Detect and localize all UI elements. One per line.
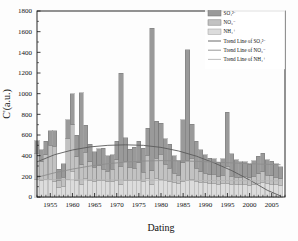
- bar-segment: [146, 179, 150, 197]
- legend-label: Trend Line of NO₃⁻: [224, 47, 266, 53]
- bar-segment: [154, 158, 158, 179]
- bar-segment: [57, 169, 61, 180]
- bar-segment: [88, 180, 92, 197]
- bar-segment: [92, 152, 96, 168]
- bar-segment: [146, 128, 150, 155]
- bar-segment: [274, 164, 278, 177]
- bar-segment: [53, 146, 57, 181]
- bar-segment: [97, 165, 101, 181]
- bar-segment: [243, 162, 247, 176]
- bar-segment: [190, 180, 194, 197]
- bar-segment: [137, 141, 141, 163]
- bar-segment: [70, 125, 74, 172]
- bar-segment: [97, 149, 101, 166]
- bar-segment: [128, 149, 132, 167]
- bar-segment: [119, 166, 123, 185]
- bar-segment: [203, 155, 207, 174]
- bar-segment: [234, 160, 238, 178]
- bar-segment: [270, 161, 274, 175]
- chart-canvas: 0200400600800100012001400160018001955196…: [0, 0, 298, 241]
- bar-segment: [230, 154, 234, 177]
- legend-swatch-so4[interactable]: [208, 11, 221, 16]
- bar-segment: [70, 94, 74, 125]
- bar-segment: [39, 162, 43, 181]
- legend-label: Trend Line of SO₄²⁻: [224, 38, 267, 44]
- bar-segment: [84, 152, 88, 179]
- bar-segment: [181, 120, 185, 163]
- bar-segment: [278, 167, 282, 179]
- bar-segment: [44, 179, 48, 197]
- bar-segment: [212, 174, 216, 183]
- bar-segment: [119, 73, 123, 166]
- bar-segment: [208, 175, 212, 183]
- bar-segment: [101, 180, 105, 197]
- bar-segment: [150, 171, 154, 184]
- bar-segment: [57, 180, 61, 187]
- bar-segment: [221, 175, 225, 183]
- y-tick-label: 1600: [18, 28, 33, 36]
- legend-swatch-no3[interactable]: [208, 20, 221, 25]
- y-tick-label: 800: [22, 111, 33, 119]
- bar-segment: [199, 182, 203, 197]
- bar-segment: [203, 173, 207, 182]
- bar-segment: [44, 141, 48, 154]
- x-tick-label: 1960: [65, 201, 80, 209]
- bar-segment: [141, 148, 145, 172]
- bar-segment: [256, 174, 260, 183]
- bar-segment: [261, 182, 265, 197]
- bar-segment: [168, 144, 172, 168]
- bar-segment: [185, 50, 189, 161]
- x-tick-label: 1965: [88, 201, 103, 209]
- bar-segment: [132, 180, 136, 197]
- bar-segment: [194, 168, 198, 181]
- x-tick-label: 2000: [243, 201, 258, 209]
- bar-segment: [185, 160, 189, 181]
- bar-segment: [154, 179, 158, 197]
- bar-segment: [66, 179, 70, 197]
- legend-swatch-nh4[interactable]: [208, 29, 221, 34]
- bar-segment: [110, 182, 114, 198]
- bar-segment: [177, 175, 181, 183]
- bar-segment: [159, 154, 163, 180]
- bar-segment: [270, 176, 274, 184]
- bar-segment: [194, 182, 198, 198]
- y-axis-title: C'(a.u.): [1, 89, 13, 119]
- x-tick-label: 1995: [220, 201, 235, 209]
- bar-segment: [66, 138, 70, 179]
- x-tick-label: 1985: [176, 201, 191, 209]
- bar-segment: [132, 147, 136, 168]
- bar-segment: [150, 28, 154, 171]
- bar-segment: [123, 181, 127, 197]
- bar-segment: [261, 153, 265, 172]
- bar-segment: [92, 167, 96, 181]
- legend-label: NO₃⁻: [224, 19, 236, 25]
- bar-segment: [84, 179, 88, 197]
- x-axis-title: Dating: [147, 222, 174, 233]
- x-tick-label: 1970: [110, 201, 125, 209]
- bar-segment: [256, 156, 260, 174]
- y-tick-label: 1400: [18, 49, 33, 57]
- bar-segment: [75, 135, 79, 157]
- bar-segment: [123, 161, 127, 181]
- x-tick-label: 1975: [132, 201, 147, 209]
- bar-segment: [265, 160, 269, 176]
- bar-segment: [39, 180, 43, 197]
- x-tick-label: 1955: [43, 201, 58, 209]
- x-tick-label: 1980: [154, 201, 169, 209]
- bar-segment: [159, 123, 163, 154]
- bar-segment: [146, 155, 150, 179]
- legend-label: NH₄⁺: [224, 28, 236, 34]
- y-tick-label: 1800: [18, 7, 33, 15]
- bar-segment: [190, 124, 194, 158]
- bar-segment: [212, 159, 216, 175]
- bar-segment: [88, 162, 92, 181]
- y-tick-label: 0: [29, 193, 33, 201]
- bar-segment: [163, 164, 167, 181]
- y-tick-label: 400: [22, 152, 33, 160]
- bar-segment: [48, 131, 52, 145]
- bar-segment: [101, 148, 105, 169]
- chart-legend: SO₄²⁻NO₃⁻NH₄⁺Trend Line of SO₄²⁻Trend Li…: [205, 10, 285, 69]
- y-tick-label: 1000: [18, 90, 33, 98]
- bar-segment: [247, 164, 251, 177]
- bar-segment: [132, 168, 136, 180]
